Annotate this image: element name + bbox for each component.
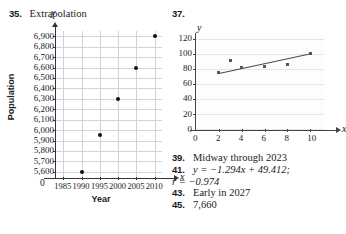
chart35-x-tick-label: 1990 bbox=[73, 181, 90, 191]
chart35-gridline-vertical bbox=[100, 31, 101, 177]
chart37-y-axis-glyph: y bbox=[197, 22, 201, 33]
answer-item: 45.7,660 bbox=[172, 199, 338, 210]
chart37-y-tick-label: 80 bbox=[183, 64, 192, 73]
chart37-y-tick-mark bbox=[193, 39, 196, 40]
chart35-gridline-horizontal bbox=[56, 68, 162, 69]
problem-37-header: 37. bbox=[172, 3, 185, 21]
chart37-x-tick-label: 8 bbox=[284, 133, 289, 143]
chart35-data-point bbox=[134, 66, 138, 70]
chart35-y-tick-label: 6,800 bbox=[34, 42, 54, 51]
chart35-gridline-horizontal bbox=[56, 57, 162, 58]
answer-number: 43. bbox=[172, 187, 190, 198]
linear-regression-scatter-chart: 204060801001200 0 0246810 y x bbox=[168, 26, 340, 144]
population-vs-year-scatter-chart: Population Year 5,6005,7005,8005,9006,00… bbox=[4, 18, 169, 214]
chart37-gridline-horizontal bbox=[196, 69, 324, 70]
chart35-y-tick-mark bbox=[53, 130, 56, 131]
answer-text: Early in 2027 bbox=[193, 187, 250, 198]
chart37-x-tick-mark bbox=[287, 129, 288, 132]
problem-37-number: 37. bbox=[172, 8, 185, 19]
answer-list: 39.Midway through 202341.y = −1.294x + 4… bbox=[172, 152, 338, 211]
chart35-y-axis-line bbox=[55, 26, 56, 178]
chart35-x-tick-mark bbox=[155, 177, 156, 180]
chart35-gridline-vertical bbox=[155, 31, 156, 177]
chart37-y-tick-label: 20 bbox=[183, 110, 192, 119]
chart35-gridline-horizontal bbox=[56, 141, 162, 142]
chart37-x-tick-mark bbox=[265, 129, 266, 132]
chart35-y-axis-glyph: y bbox=[51, 7, 55, 18]
chart35-y-tick-label: 6,700 bbox=[34, 53, 54, 62]
chart35-y-tick-label: 5,800 bbox=[34, 146, 54, 155]
chart35-y-tick-mark bbox=[53, 161, 56, 162]
chart37-x-axis-arrow bbox=[336, 127, 341, 133]
chart37-gridline-horizontal bbox=[196, 39, 324, 40]
chart37-y-tick-labels: 204060801001200 bbox=[168, 26, 192, 126]
chart35-x-tick-labels: 198519901995200020052010 bbox=[44, 181, 168, 195]
chart37-x-tick-mark bbox=[242, 129, 243, 132]
chart35-data-point bbox=[116, 97, 120, 101]
chart35-y-tick-label: 6,100 bbox=[34, 115, 54, 124]
chart37-y-tick-label: 60 bbox=[183, 79, 192, 88]
answer-number: 41. bbox=[172, 164, 190, 175]
chart35-plot-area bbox=[56, 31, 162, 177]
chart35-gridline-horizontal bbox=[56, 36, 162, 37]
answer-text: Midway through 2023 bbox=[193, 152, 287, 163]
chart35-x-tick-mark bbox=[136, 177, 137, 180]
answer-text: y = −1.294x + 49.412; bbox=[193, 164, 290, 175]
chart37-x-tick-label: 10 bbox=[307, 133, 316, 143]
chart37-data-point bbox=[263, 65, 266, 68]
chart35-data-point bbox=[80, 170, 84, 174]
chart37-gridline-horizontal bbox=[196, 114, 324, 115]
chart35-y-tick-label: 6,500 bbox=[34, 73, 54, 82]
answer-item: 41.y = −1.294x + 49.412; bbox=[172, 164, 338, 175]
chart37-x-axis-glyph: x bbox=[342, 123, 346, 134]
chart35-gridline-vertical bbox=[136, 31, 137, 177]
chart35-gridline-horizontal bbox=[56, 47, 162, 48]
chart37-data-point bbox=[309, 52, 312, 55]
chart35-y-tick-mark bbox=[53, 172, 56, 173]
chart35-gridline-horizontal bbox=[56, 78, 162, 79]
chart37-trend-line bbox=[219, 53, 311, 74]
chart35-y-tick-label: 5,700 bbox=[34, 157, 54, 166]
chart35-data-point bbox=[153, 34, 157, 38]
chart37-data-point bbox=[229, 59, 232, 62]
chart35-y-tick-label: 5,900 bbox=[34, 136, 54, 145]
chart35-gridline-vertical bbox=[82, 31, 83, 177]
chart35-x-tick-label: 2005 bbox=[127, 181, 144, 191]
chart37-x-tick-label: 4 bbox=[239, 133, 244, 143]
chart37-y-tick-mark bbox=[193, 69, 196, 70]
chart35-y-tick-mark bbox=[53, 57, 56, 58]
chart37-y-axis-line bbox=[195, 33, 196, 131]
chart37-data-point bbox=[217, 71, 220, 74]
chart37-y-tick-label: 40 bbox=[183, 94, 192, 103]
chart37-x-tick-label: 0 bbox=[193, 133, 198, 143]
chart37-x-tick-label: 2 bbox=[216, 133, 221, 143]
chart37-x-tick-labels: 0246810 bbox=[182, 133, 332, 145]
chart37-y-tick-label: 120 bbox=[179, 34, 193, 43]
chart35-y-tick-mark bbox=[53, 151, 56, 152]
chart35-y-tick-mark bbox=[53, 88, 56, 89]
chart35-y-tick-mark bbox=[53, 109, 56, 110]
chart35-data-point bbox=[98, 133, 102, 137]
chart37-y-tick-label: 100 bbox=[179, 49, 193, 58]
chart37-x-tick-mark bbox=[219, 129, 220, 132]
chart35-gridline-horizontal bbox=[56, 172, 162, 173]
chart37-data-point bbox=[286, 63, 289, 66]
chart35-gridline-horizontal bbox=[56, 120, 162, 121]
answer-text-continuation: r = −0.974 bbox=[172, 176, 338, 187]
chart35-y-tick-label: 6,600 bbox=[34, 63, 54, 72]
chart35-x-tick-label: 1985 bbox=[54, 181, 71, 191]
chart35-x-tick-mark bbox=[118, 177, 119, 180]
chart35-gridline-horizontal bbox=[56, 99, 162, 100]
chart35-y-tick-label: 6,900 bbox=[34, 32, 54, 41]
chart35-y-tick-label: 6,400 bbox=[34, 84, 54, 93]
chart35-y-tick-mark bbox=[53, 47, 56, 48]
chart35-x-tick-label: 1995 bbox=[91, 181, 108, 191]
chart35-gridline-horizontal bbox=[56, 151, 162, 152]
chart37-x-tick-label: 6 bbox=[262, 133, 267, 143]
chart35-y-tick-label: 5,600 bbox=[34, 167, 54, 176]
chart35-x-tick-mark bbox=[82, 177, 83, 180]
answer-item: 43.Early in 2027 bbox=[172, 187, 338, 198]
chart37-data-point bbox=[240, 66, 243, 69]
chart35-y-tick-label: 6,200 bbox=[34, 105, 54, 114]
answer-text: 7,660 bbox=[193, 199, 217, 210]
